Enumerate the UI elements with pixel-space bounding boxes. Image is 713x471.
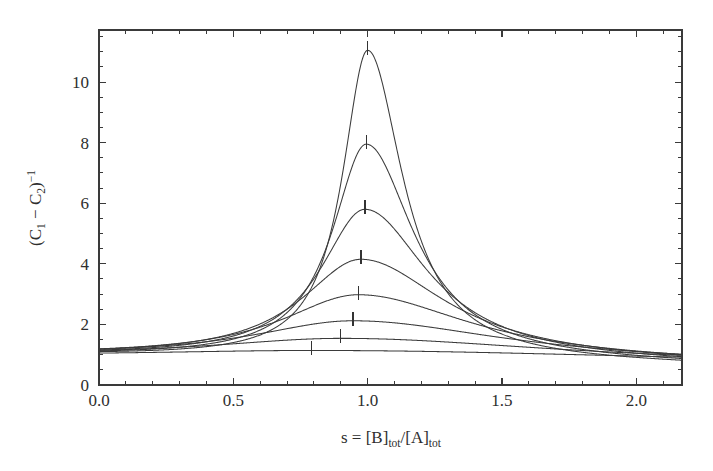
y-tick-label: 6: [81, 194, 90, 213]
x-tick-label: 1.0: [357, 391, 378, 410]
x-tick-label: 0.5: [223, 391, 244, 410]
y-tick-label: 0: [81, 376, 90, 395]
y-tick-label: 2: [81, 315, 90, 334]
x-tick-label: 0.0: [88, 391, 109, 410]
x-tick-label: 2.0: [626, 391, 647, 410]
chart-canvas: 0.00.51.01.52.0 0246810 s = [B]tot/[A]to…: [0, 0, 713, 471]
y-tick-label: 4: [81, 255, 90, 274]
y-tick-label: 10: [72, 73, 89, 92]
x-tick-label: 1.5: [491, 391, 512, 410]
figure-root: 0.00.51.01.52.0 0246810 s = [B]tot/[A]to…: [0, 0, 713, 471]
y-tick-label: 8: [81, 134, 90, 153]
